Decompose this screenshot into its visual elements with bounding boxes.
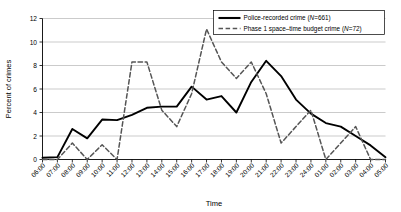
series-line-0 (43, 61, 386, 158)
legend-label-1: Phase 1 space–time budget crime (N=72) (244, 25, 362, 33)
xtick-label-3: 09:00 (75, 162, 92, 179)
x-axis-title: Time (206, 199, 222, 208)
xtick-label-13: 19:00 (224, 162, 241, 179)
xtick-label-4: 10:00 (89, 162, 106, 179)
xtick-label-14: 20:00 (239, 162, 256, 179)
xtick-label-12: 18:00 (209, 162, 226, 179)
xtick-label-10: 16:00 (179, 162, 196, 179)
xtick-label-21: 03:00 (343, 162, 360, 179)
legend-label-0: Police-recorded crime (N=661) (244, 14, 331, 22)
ytick-label-4: 4 (33, 109, 37, 116)
chart-container: 02468101206:0007:0008:0009:0010:0011:001… (0, 0, 401, 212)
ytick-label-6: 6 (33, 86, 37, 93)
ytick-label-2: 2 (33, 133, 37, 140)
xtick-label-23: 05:00 (373, 162, 390, 179)
xtick-label-15: 21:00 (253, 162, 270, 179)
xtick-label-11: 17:00 (194, 162, 211, 179)
xtick-label-0: 06:00 (30, 162, 47, 179)
xtick-label-19: 01:00 (313, 162, 330, 179)
line-chart: 02468101206:0007:0008:0009:0010:0011:001… (0, 0, 401, 212)
ytick-label-12: 12 (30, 15, 38, 22)
xtick-label-7: 13:00 (134, 162, 151, 179)
xtick-label-8: 14:00 (149, 162, 166, 179)
series-line-1 (43, 29, 386, 159)
xtick-label-16: 22:00 (268, 162, 285, 179)
xtick-label-5: 11:00 (105, 162, 122, 179)
xtick-label-9: 15:00 (164, 162, 181, 179)
xtick-label-17: 23:00 (283, 162, 300, 179)
xtick-label-20: 02:00 (328, 162, 345, 179)
ytick-label-10: 10 (30, 39, 38, 46)
xtick-label-1: 07:00 (45, 162, 62, 179)
y-axis-title: Percent of crimes (4, 60, 13, 119)
xtick-label-22: 04:00 (358, 162, 375, 179)
xtick-label-18: 24:00 (298, 162, 315, 179)
xtick-label-2: 08:00 (60, 162, 77, 179)
xtick-label-6: 12:00 (119, 162, 136, 179)
ytick-label-8: 8 (33, 62, 37, 69)
ytick-label-0: 0 (33, 156, 37, 163)
